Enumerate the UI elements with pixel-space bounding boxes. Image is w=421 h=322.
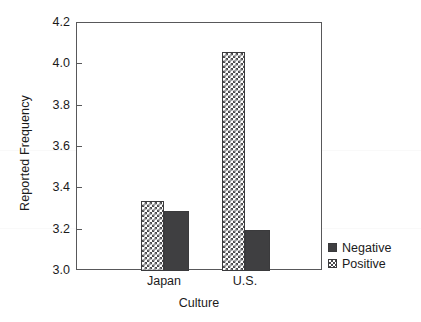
bar-chart-figure: Reported Frequency 4.2 4.0 3.8 3.6 3.4 3… — [0, 0, 421, 322]
y-tick-label-4-2: 4.2 — [32, 16, 70, 28]
legend-label-negative: Negative — [342, 241, 391, 255]
x-axis-tick-labels: Japan U.S. — [76, 274, 322, 292]
y-tick-label-3-0: 3.0 — [32, 264, 70, 276]
x-axis-title: Culture — [76, 296, 322, 310]
y-tick-label-3-2: 3.2 — [32, 223, 70, 235]
y-tick-mark — [76, 105, 82, 106]
y-tick-label-3-8: 3.8 — [32, 99, 70, 111]
y-tick-mark — [76, 187, 82, 188]
bar-japan-negative — [164, 211, 189, 271]
chart-legend: Negative Positive — [328, 240, 420, 272]
y-tick-label-3-4: 3.4 — [32, 181, 70, 193]
y-tick-mark — [76, 63, 82, 64]
y-tick-mark — [76, 229, 82, 230]
y-tick-label-3-6: 3.6 — [32, 140, 70, 152]
y-tick-label-4-0: 4.0 — [32, 57, 70, 69]
plot-area — [76, 22, 322, 270]
legend-item-negative: Negative — [328, 240, 420, 255]
y-axis-tick-marks — [76, 22, 86, 270]
x-tick-label-us: U.S. — [200, 274, 290, 288]
y-tick-mark — [76, 146, 82, 147]
bars-layer — [77, 23, 323, 271]
legend-swatch-negative-icon — [328, 243, 337, 252]
x-tick-label-japan: Japan — [119, 274, 209, 288]
bar-japan-positive — [141, 201, 164, 271]
legend-item-positive: Positive — [328, 256, 420, 271]
legend-label-positive: Positive — [342, 257, 386, 271]
bar-us-positive — [222, 52, 245, 271]
y-axis-tick-labels: 4.2 4.0 3.8 3.6 3.4 3.2 3.0 — [26, 22, 70, 270]
bar-us-negative — [245, 230, 270, 271]
legend-swatch-positive-icon — [328, 259, 337, 268]
